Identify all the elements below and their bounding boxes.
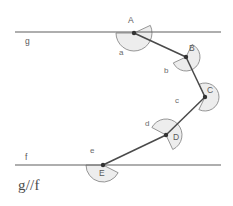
- segment-cd: [166, 97, 205, 135]
- segment-de: [103, 135, 166, 165]
- vertex-dot-a: [132, 31, 136, 35]
- vertex-dot-d: [164, 133, 168, 137]
- vertex-dot-c: [203, 95, 207, 99]
- vertex-dot-b: [184, 55, 188, 59]
- vertex-dot-e: [101, 163, 105, 167]
- angle-arc-e: [86, 165, 118, 182]
- angle-arc-c: [199, 83, 219, 111]
- geometry-figure: g f A B C D E a b c d e g//f: [0, 0, 233, 206]
- geometry-canvas: [0, 0, 233, 206]
